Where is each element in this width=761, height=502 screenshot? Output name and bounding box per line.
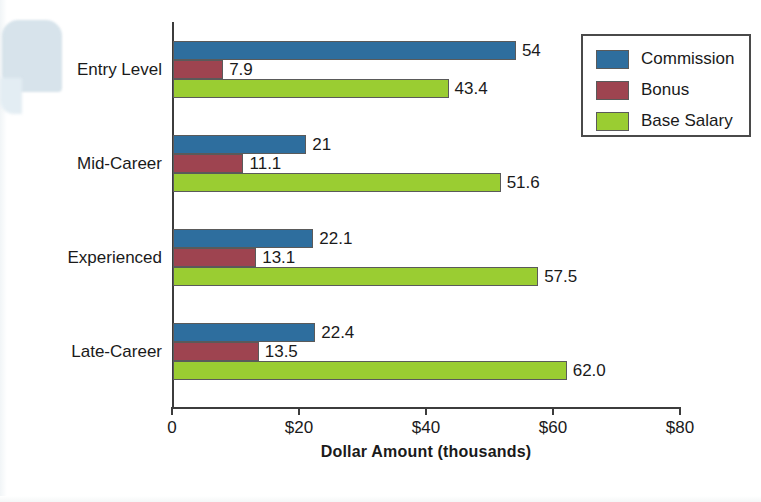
- x-tick-4: [679, 407, 681, 415]
- x-tick-3: [552, 407, 554, 415]
- bar-experienced-commission: [173, 229, 313, 248]
- x-tick-1: [298, 407, 300, 415]
- bar-entry-level-base-salary: [173, 79, 449, 98]
- bar-entry-level-bonus: [173, 60, 223, 79]
- bar-late-career-commission: [173, 323, 315, 342]
- x-tick-label-1: $20: [285, 418, 313, 438]
- chart-screenshot: Experience Level Entry LevelMid-CareerEx…: [0, 0, 761, 502]
- legend-swatch-bonus: [596, 81, 629, 100]
- bar-value-label: 13.5: [265, 342, 298, 361]
- bar-value-label: 54: [522, 41, 541, 60]
- x-tick-label-2: $40: [412, 418, 440, 438]
- bar-entry-level-commission: [173, 41, 516, 60]
- bar-value-label: 13.1: [262, 248, 295, 267]
- bar-value-label: 43.4: [455, 79, 488, 98]
- category-label-late-career: Late-Career: [71, 342, 162, 362]
- bar-mid-career-commission: [173, 135, 306, 154]
- category-label-experienced: Experienced: [67, 248, 162, 268]
- bar-mid-career-base-salary: [173, 173, 501, 192]
- category-label-entry-level: Entry Level: [77, 60, 162, 80]
- bar-value-label: 22.1: [319, 229, 352, 248]
- bar-late-career-base-salary: [173, 361, 567, 380]
- legend-item-base-salary: Base Salary: [596, 110, 733, 132]
- bar-value-label: 11.1: [249, 154, 281, 173]
- bar-value-label: 51.6: [507, 173, 540, 192]
- bar-mid-career-bonus: [173, 154, 243, 173]
- bar-experienced-bonus: [173, 248, 256, 267]
- bar-experienced-base-salary: [173, 267, 538, 286]
- category-label-mid-career: Mid-Career: [77, 154, 162, 174]
- bar-value-label: 57.5: [544, 267, 577, 286]
- bar-value-label: 21: [312, 135, 331, 154]
- legend-item-bonus: Bonus: [596, 79, 689, 101]
- x-axis-title: Dollar Amount (thousands): [172, 443, 680, 461]
- bar-value-label: 22.4: [321, 323, 354, 342]
- chart-legend: CommissionBonusBase Salary: [581, 34, 751, 137]
- x-tick-label-4: $80: [666, 418, 694, 438]
- legend-label: Commission: [641, 49, 735, 69]
- x-tick-label-0: 0: [167, 418, 176, 438]
- legend-swatch-base-salary: [596, 112, 629, 131]
- legend-item-commission: Commission: [596, 48, 735, 70]
- legend-label: Bonus: [641, 80, 689, 100]
- x-tick-2: [425, 407, 427, 415]
- bar-value-label: 7.9: [229, 60, 253, 79]
- x-tick-0: [171, 407, 173, 415]
- scan-bottom-artifact: [0, 496, 761, 502]
- legend-swatch-commission: [596, 50, 629, 69]
- bar-value-label: 62.0: [573, 361, 606, 380]
- legend-label: Base Salary: [641, 111, 733, 131]
- category-label-group: Entry LevelMid-CareerExperiencedLate-Car…: [0, 0, 172, 407]
- bar-late-career-bonus: [173, 342, 259, 361]
- x-tick-label-3: $60: [539, 418, 567, 438]
